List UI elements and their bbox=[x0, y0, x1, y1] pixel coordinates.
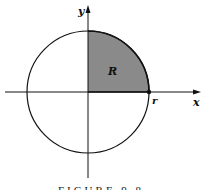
figure-caption: FIGURE 9.8 bbox=[58, 184, 144, 190]
y-axis-arrow-icon bbox=[86, 5, 91, 13]
x-axis-arrow-icon bbox=[193, 90, 201, 95]
y-axis-label: y bbox=[77, 5, 86, 18]
figure-diagram: y x R r FIGURE 9.8 bbox=[0, 0, 202, 190]
radius-label: r bbox=[152, 95, 158, 106]
x-axis-label: x bbox=[192, 96, 200, 109]
region-label: R bbox=[107, 65, 117, 78]
region-r-shaded bbox=[88, 31, 149, 92]
radius-point bbox=[147, 90, 151, 94]
